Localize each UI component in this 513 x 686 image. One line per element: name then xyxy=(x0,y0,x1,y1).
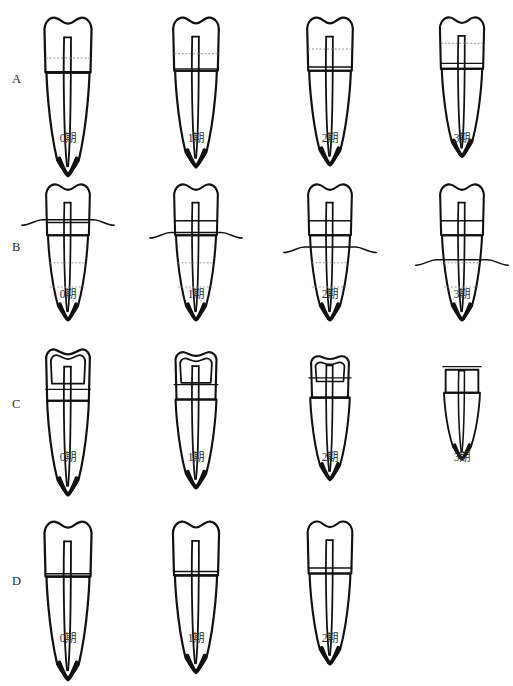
stage-label: 0期 xyxy=(60,452,77,464)
tooth-diagram-icon xyxy=(15,12,121,184)
stage-label: 1期 xyxy=(188,133,205,145)
tooth-cell: 3期 xyxy=(398,175,513,311)
tooth-diagram-icon xyxy=(15,516,121,686)
stage-label: 2期 xyxy=(322,289,339,301)
tooth-cell: 0期 xyxy=(4,512,132,655)
stage-label: 1期 xyxy=(188,452,205,464)
tooth-cell: 3期 xyxy=(398,338,513,474)
tooth-cell: 2期 xyxy=(266,512,394,655)
stage-label: 0期 xyxy=(60,633,77,645)
stage-label: 2期 xyxy=(322,133,339,145)
tooth-diagram-icon xyxy=(281,179,380,328)
tooth-row-d: D0期1期2期 xyxy=(0,512,513,655)
tooth-diagram-icon xyxy=(145,12,248,175)
stage-label: 3期 xyxy=(454,452,471,464)
tooth-diagram-icon xyxy=(279,12,382,173)
tooth-row-b: B0期1期2期3期 xyxy=(0,175,513,311)
tooth-cell: 2期 xyxy=(266,8,394,155)
stage-label: 0期 xyxy=(60,133,77,145)
tooth-diagram-icon xyxy=(280,516,381,672)
tooth-cell: 2期 xyxy=(266,175,394,311)
tooth-diagram-icon xyxy=(144,516,248,681)
tooth-cell: 0期 xyxy=(4,175,132,311)
stage-label: 3期 xyxy=(454,133,471,145)
tooth-row-c: C0期1期2期3期 xyxy=(0,338,513,474)
tooth-cell: 3期 xyxy=(398,8,513,155)
tooth-cell: 1期 xyxy=(132,338,260,474)
stage-label: 0期 xyxy=(60,289,77,301)
tooth-cell: 1期 xyxy=(132,8,260,155)
tooth-diagram-icon xyxy=(17,342,120,503)
tooth-row-a: A0期1期2期3期 xyxy=(0,8,513,155)
tooth-diagram-icon xyxy=(413,179,512,328)
tooth-cell: 0期 xyxy=(4,338,132,474)
stage-label: 1期 xyxy=(188,633,205,645)
tooth-diagram-icon xyxy=(281,342,379,487)
tooth-cell: 0期 xyxy=(4,8,132,155)
tooth-cell: 2期 xyxy=(266,338,394,474)
tooth-diagram-icon xyxy=(147,179,246,328)
stage-label: 2期 xyxy=(322,633,339,645)
stage-label: 1期 xyxy=(188,289,205,301)
tooth-cell: 1期 xyxy=(132,512,260,655)
stage-label: 2期 xyxy=(322,452,339,464)
tooth-cell: 1期 xyxy=(132,175,260,311)
stage-label: 3期 xyxy=(454,289,471,301)
tooth-diagram-icon xyxy=(19,179,118,328)
tooth-diagram-icon xyxy=(417,342,506,466)
tooth-diagram-icon xyxy=(146,342,247,496)
